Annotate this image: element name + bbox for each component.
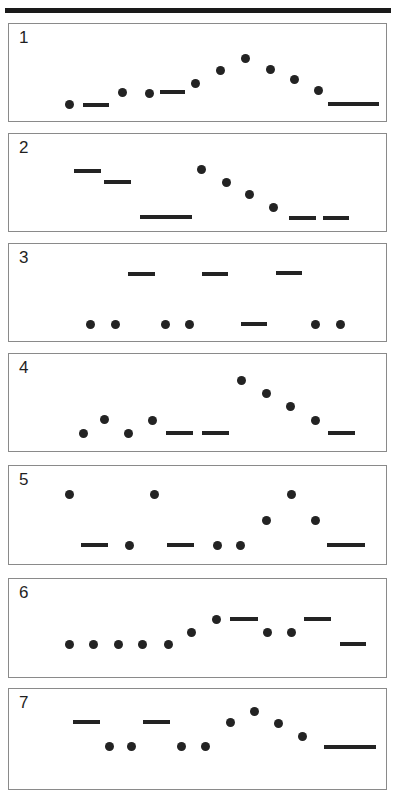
- marker-dot: [86, 320, 95, 329]
- marker-dot: [263, 628, 272, 637]
- marker-dot: [127, 742, 136, 751]
- marker-dot: [262, 389, 271, 398]
- marker-dot: [216, 66, 225, 75]
- marker-dash: [202, 272, 228, 276]
- marker-dot: [226, 718, 235, 727]
- marker-dot: [65, 640, 74, 649]
- panel-6: 6: [8, 578, 387, 678]
- marker-dot: [105, 742, 114, 751]
- marker-dot: [79, 429, 88, 438]
- marker-dash: [74, 169, 101, 173]
- marker-dot: [245, 190, 254, 199]
- marker-dot: [290, 75, 299, 84]
- marker-dot: [262, 516, 271, 525]
- marker-dash: [289, 216, 316, 220]
- marker-dash: [340, 642, 366, 646]
- marker-dot: [145, 89, 154, 98]
- marker-dash: [167, 543, 194, 547]
- marker-dot: [150, 490, 159, 499]
- marker-dot: [111, 320, 120, 329]
- panel-2: 2: [8, 133, 387, 232]
- marker-dot: [114, 640, 123, 649]
- marker-dot: [185, 320, 194, 329]
- marker-dot: [177, 742, 186, 751]
- marker-dot: [201, 742, 210, 751]
- marker-dot: [187, 628, 196, 637]
- marker-dot: [269, 203, 278, 212]
- panel-plot-area: [9, 134, 386, 231]
- panel-plot-area: [9, 24, 386, 121]
- marker-dot: [100, 415, 109, 424]
- marker-dot: [125, 541, 134, 550]
- marker-dot: [213, 541, 222, 550]
- marker-dash: [202, 431, 229, 435]
- marker-dash: [81, 543, 108, 547]
- marker-dash: [104, 180, 131, 184]
- marker-dash: [166, 431, 193, 435]
- marker-dot: [197, 165, 206, 174]
- panel-1: 1: [8, 23, 387, 122]
- marker-dash: [143, 720, 170, 724]
- marker-dash: [230, 617, 258, 621]
- marker-dot: [287, 490, 296, 499]
- marker-dot: [89, 640, 98, 649]
- marker-dot: [274, 719, 283, 728]
- marker-dot: [164, 640, 173, 649]
- marker-dot: [314, 86, 323, 95]
- marker-dot: [212, 615, 221, 624]
- marker-dash: [324, 745, 376, 749]
- marker-dot: [124, 429, 133, 438]
- panel-plot-area: [9, 689, 386, 789]
- marker-dash: [304, 617, 331, 621]
- panel-plot-area: [9, 466, 386, 564]
- marker-dot: [161, 320, 170, 329]
- marker-dot: [138, 640, 147, 649]
- marker-dot: [237, 376, 246, 385]
- marker-dot: [241, 54, 250, 63]
- marker-dash: [241, 322, 267, 326]
- panel-7: 7: [8, 688, 387, 790]
- marker-dot: [236, 541, 245, 550]
- panel-plot-area: [9, 579, 386, 677]
- marker-dot: [266, 65, 275, 74]
- top-divider-rule: [5, 8, 391, 13]
- marker-dot: [65, 100, 74, 109]
- marker-dot: [250, 707, 259, 716]
- marker-dash: [276, 271, 302, 275]
- marker-dot: [311, 320, 320, 329]
- marker-dash: [128, 272, 155, 276]
- figure-canvas: 1234567: [0, 0, 405, 797]
- marker-dot: [311, 416, 320, 425]
- marker-dash: [160, 90, 185, 94]
- panel-3: 3: [8, 243, 387, 342]
- marker-dot: [298, 732, 307, 741]
- marker-dash: [83, 103, 109, 107]
- marker-dot: [287, 628, 296, 637]
- marker-dot: [148, 416, 157, 425]
- marker-dash: [73, 720, 100, 724]
- marker-dash: [328, 431, 355, 435]
- marker-dash: [323, 216, 349, 220]
- marker-dot: [336, 320, 345, 329]
- marker-dash: [140, 215, 192, 219]
- panel-5: 5: [8, 465, 387, 565]
- panel-plot-area: [9, 244, 386, 341]
- panel-plot-area: [9, 354, 386, 451]
- marker-dot: [222, 178, 231, 187]
- marker-dot: [191, 79, 200, 88]
- marker-dot: [118, 88, 127, 97]
- marker-dash: [328, 102, 379, 106]
- marker-dot: [311, 516, 320, 525]
- marker-dot: [286, 402, 295, 411]
- marker-dot: [65, 490, 74, 499]
- marker-dash: [327, 543, 365, 547]
- panel-4: 4: [8, 353, 387, 452]
